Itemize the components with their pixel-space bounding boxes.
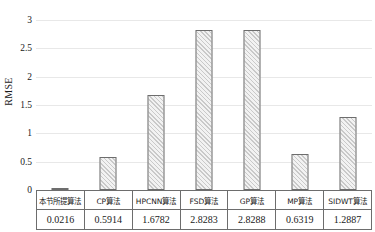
category-cell: HPCNN算法 bbox=[132, 191, 180, 210]
category-cell: 本节所提算法 bbox=[37, 191, 85, 210]
value-cell: 2.8288 bbox=[228, 210, 276, 230]
value-cell: 0.5914 bbox=[84, 210, 132, 230]
rmse-bar-chart-figure: RMSE 00.511.522.53 本节所提算法CP算法HPCNN算法FSD算… bbox=[0, 0, 375, 232]
bar[interactable] bbox=[340, 117, 357, 190]
bar[interactable] bbox=[292, 154, 309, 190]
bar-slot bbox=[276, 20, 324, 190]
bar-slot bbox=[324, 20, 372, 190]
bar-slot bbox=[180, 20, 228, 190]
bar-slot bbox=[36, 20, 84, 190]
table-row-categories: 本节所提算法CP算法HPCNN算法FSD算法GP算法MP算法SIDWT算法 bbox=[37, 191, 372, 210]
plot-area: 00.511.522.53 bbox=[36, 20, 372, 190]
category-cell: MP算法 bbox=[276, 191, 324, 210]
table-row-values: 0.02160.59141.67822.82832.82880.63191.28… bbox=[37, 210, 372, 230]
bar[interactable] bbox=[196, 30, 213, 190]
category-cell: FSD算法 bbox=[180, 191, 228, 210]
y-tick-label-2.5: 2.5 bbox=[2, 43, 32, 53]
y-tick-label-0.5: 0.5 bbox=[2, 157, 32, 167]
y-tick-label-2: 2 bbox=[2, 72, 32, 82]
y-tick-label-1: 1 bbox=[2, 128, 32, 138]
bar-series bbox=[36, 20, 372, 190]
y-tick-label-0: 0 bbox=[2, 185, 32, 195]
bar-slot bbox=[228, 20, 276, 190]
category-cell: SIDWT算法 bbox=[324, 191, 372, 210]
bar[interactable] bbox=[244, 30, 261, 190]
value-cell: 0.6319 bbox=[276, 210, 324, 230]
value-cell: 1.2887 bbox=[324, 210, 372, 230]
bar-slot bbox=[84, 20, 132, 190]
category-cell: GP算法 bbox=[228, 191, 276, 210]
y-tick-label-3: 3 bbox=[2, 15, 32, 25]
y-tick-label-1.5: 1.5 bbox=[2, 100, 32, 110]
data-table: 本节所提算法CP算法HPCNN算法FSD算法GP算法MP算法SIDWT算法 0.… bbox=[36, 190, 372, 230]
value-cell: 1.6782 bbox=[132, 210, 180, 230]
bar[interactable] bbox=[148, 95, 165, 190]
category-cell: CP算法 bbox=[84, 191, 132, 210]
bar-slot bbox=[132, 20, 180, 190]
bar[interactable] bbox=[100, 157, 117, 191]
value-cell: 0.0216 bbox=[37, 210, 85, 230]
value-cell: 2.8283 bbox=[180, 210, 228, 230]
